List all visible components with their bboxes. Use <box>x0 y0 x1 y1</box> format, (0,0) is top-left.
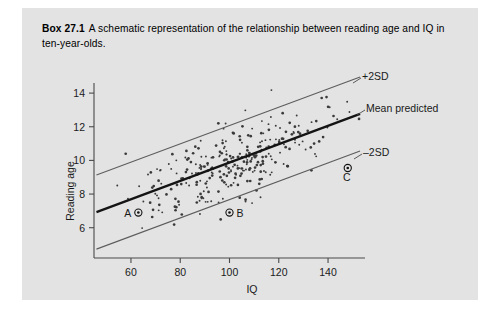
scatter-point <box>246 159 248 161</box>
scatter-point <box>151 216 154 219</box>
scatter-point <box>218 155 220 157</box>
scatter-point <box>287 165 289 167</box>
scatter-point <box>249 167 252 170</box>
scatter-point <box>313 142 316 145</box>
scatter-point <box>212 156 215 159</box>
scatter-point <box>260 178 263 181</box>
scatter-point <box>241 142 243 144</box>
scatter-point <box>299 132 302 135</box>
scatter-point <box>116 185 118 187</box>
y-axis-ticks: 68101214 <box>73 87 94 234</box>
scatter-point <box>176 184 179 187</box>
scatter-point <box>185 171 188 174</box>
scatter-point <box>197 196 199 198</box>
scatter-point <box>346 101 348 103</box>
scatter-point <box>141 227 143 229</box>
scatter-point <box>178 204 180 206</box>
scatter-point <box>225 150 227 152</box>
scatter-point <box>199 200 201 202</box>
scatter-point <box>302 140 304 142</box>
leader-mean-predicted <box>357 110 365 115</box>
scatter-point <box>165 193 168 196</box>
scatter-point <box>197 147 200 150</box>
scatter-point <box>315 155 317 157</box>
scatter-point <box>252 171 254 173</box>
scatter-point <box>298 144 300 146</box>
scatter-point <box>262 162 265 165</box>
scatter-point <box>217 190 220 193</box>
scatter-point <box>241 125 244 128</box>
scatter-point <box>246 149 249 152</box>
scatter-point <box>175 206 178 209</box>
regression-line--2SD <box>96 151 360 249</box>
scatter-point <box>221 142 224 145</box>
scatter-point <box>203 166 205 168</box>
plot-svg: 68101214 6080100120140 Reading age IQ +2… <box>22 8 478 300</box>
scatter-point <box>281 112 284 115</box>
scatter-point <box>349 111 351 113</box>
scatter-point <box>233 182 235 184</box>
scatter-point <box>285 130 288 133</box>
scatter-point <box>264 139 266 141</box>
scatter-point <box>180 183 183 186</box>
scatter-plot: 68101214 6080100120140 Reading age IQ +2… <box>22 8 478 300</box>
scatter-point <box>225 140 227 142</box>
scatter-point <box>288 148 291 151</box>
axes-layer: 68101214 6080100120140 <box>73 83 365 278</box>
scatter-point <box>199 213 201 215</box>
scatter-point <box>210 200 212 202</box>
scatter-point <box>306 130 309 133</box>
scatter-point <box>261 140 263 142</box>
scatter-point <box>124 152 127 155</box>
scatter-point <box>160 169 162 171</box>
scatter-point <box>152 209 155 212</box>
scatter-point <box>177 200 180 203</box>
scatter-point <box>315 120 318 123</box>
scatter-point <box>205 201 207 203</box>
scatter-point <box>243 160 246 163</box>
scatter-point <box>226 153 228 155</box>
scatter-point <box>228 171 231 174</box>
scatter-point <box>158 203 161 206</box>
scatter-point <box>246 146 249 149</box>
scatter-point <box>311 121 313 123</box>
line-label--2SD: –2SD <box>363 146 390 158</box>
scatter-point <box>279 127 281 129</box>
scatter-point <box>251 202 253 204</box>
scatter-point <box>158 197 160 199</box>
point-label-B: B <box>237 207 244 219</box>
scatter-point <box>158 209 160 211</box>
scatter-point <box>233 164 236 167</box>
marker-core-A <box>137 211 140 214</box>
scatter-point <box>283 163 285 165</box>
scatter-point <box>259 145 262 148</box>
scatter-point <box>220 152 223 155</box>
point-label-A: A <box>124 207 131 219</box>
scatter-point <box>201 197 203 199</box>
scatter-point <box>249 180 252 183</box>
scatter-point <box>180 213 183 216</box>
scatter-point <box>202 197 204 199</box>
scatter-point <box>260 132 263 135</box>
x-axis-title: IQ <box>246 283 257 295</box>
scatter-point <box>293 132 295 134</box>
scatter-point <box>251 128 253 130</box>
leader--2SD <box>354 154 362 159</box>
scatter-point <box>185 150 188 153</box>
scatter-point <box>222 198 224 200</box>
scatter-point <box>200 167 202 169</box>
scatter-point <box>224 158 226 160</box>
scatter-point <box>239 174 242 177</box>
x-tick-label: 120 <box>270 266 288 278</box>
scatter-point <box>265 155 268 158</box>
scatter-point <box>251 158 253 160</box>
scatter-point <box>190 161 193 164</box>
scatter-point <box>260 196 262 198</box>
scatter-point <box>223 173 226 176</box>
scatter-point <box>154 193 156 195</box>
scatter-point <box>161 211 163 213</box>
scatter-point <box>174 197 177 200</box>
scatter-point <box>237 156 239 158</box>
regression-line-+2SD <box>96 77 360 175</box>
scatter-point <box>219 176 222 179</box>
